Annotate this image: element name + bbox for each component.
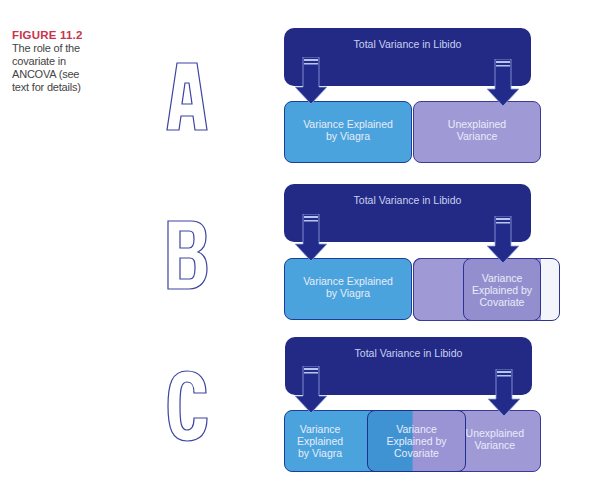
figure-label: FIGURE 11.2 xyxy=(12,29,102,42)
panel-letter-a xyxy=(165,61,209,133)
panel-letter-c xyxy=(165,370,209,442)
caption-line: ANCOVA (see xyxy=(12,68,102,81)
viagra-label-line: by Viagra xyxy=(303,287,393,299)
viagra-label-line: Variance Explained xyxy=(303,275,393,287)
arrow-down-icon xyxy=(294,366,328,414)
viagra-label-line: by Viagra xyxy=(303,130,393,142)
covariate-label-line: Covariate xyxy=(386,447,446,459)
arrow-down-icon xyxy=(294,57,328,105)
viagra-label-line: Explained xyxy=(297,435,343,447)
arrow-down-icon xyxy=(486,59,520,107)
viagra-variance-box: Variance Explained by Viagra xyxy=(284,258,412,320)
unexplained-label-line: Variance xyxy=(448,130,506,142)
viagra-variance-box: Variance Explained by Viagra xyxy=(284,101,412,163)
arrow-down-icon xyxy=(486,216,520,264)
arrow-down-icon xyxy=(487,369,521,417)
unexplained-label-line: Unexplained xyxy=(466,427,524,439)
viagra-label-line: Variance Explained xyxy=(303,118,393,130)
total-variance-label: Total Variance in Libido xyxy=(354,38,462,50)
unexplained-label-line: Variance xyxy=(466,439,524,451)
panel-letter-b xyxy=(165,219,209,291)
covariate-label-line: Covariate xyxy=(472,296,532,308)
arrow-down-icon xyxy=(294,214,328,262)
covariate-label-line: Explained by xyxy=(472,284,532,296)
covariate-variance-box: Variance Explained by Covariate xyxy=(463,258,541,321)
unexplained-label-line: Unexplained xyxy=(448,118,506,130)
covariate-label-line: Explained by xyxy=(386,435,446,447)
total-variance-label: Total Variance in Libido xyxy=(354,194,462,206)
covariate-label-line: Variance xyxy=(472,272,532,284)
figure-caption: FIGURE 11.2 The role of the covariate in… xyxy=(12,29,102,94)
covariate-label-line: Variance xyxy=(386,423,446,435)
caption-line: covariate in xyxy=(12,55,102,68)
covariate-variance-box: Variance Explained by Covariate xyxy=(367,410,466,472)
caption-line: text for details) xyxy=(12,81,102,94)
caption-line: The role of the xyxy=(12,42,102,55)
viagra-label-line: Variance xyxy=(297,423,343,435)
unexplained-variance-box: Unexplained Variance xyxy=(413,101,541,163)
total-variance-label: Total Variance in Libido xyxy=(355,347,463,359)
viagra-label-line: by Viagra xyxy=(297,447,343,459)
